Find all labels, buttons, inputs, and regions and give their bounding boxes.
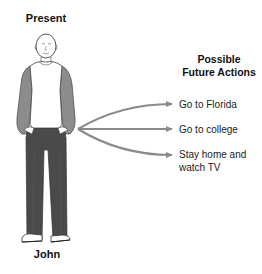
future-actions-diagram: Present John <box>0 0 262 274</box>
arrow-to-stay-home-icon <box>78 129 172 155</box>
action-go-to-college: Go to college <box>179 123 238 136</box>
action-stay-home: Stay home and watch TV <box>179 148 259 174</box>
action-go-to-florida: Go to Florida <box>179 98 237 111</box>
arrow-to-florida-icon <box>78 104 172 129</box>
arrows-group <box>0 0 262 274</box>
future-actions-heading: Possible Future Actions <box>180 53 258 79</box>
